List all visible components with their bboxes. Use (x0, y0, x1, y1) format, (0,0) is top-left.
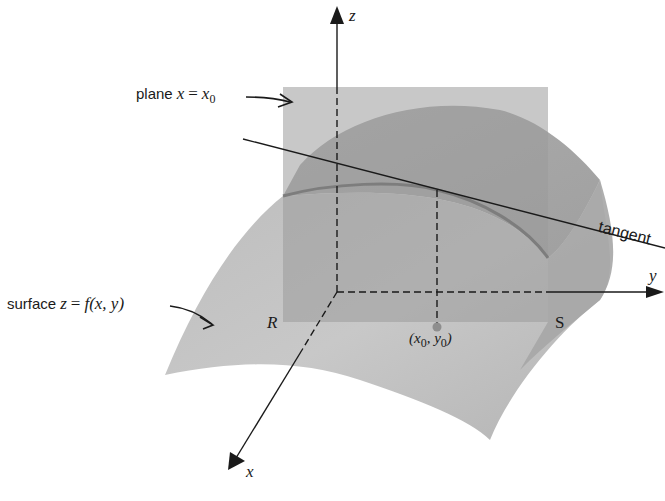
region-s-label: S (555, 313, 564, 333)
plane-label: plane x = x0 (136, 84, 215, 107)
region-r-label: R (267, 313, 277, 333)
z-axis-arrowhead (330, 6, 344, 24)
point-label-close: ) (447, 330, 452, 346)
plane-label-var: x (177, 84, 185, 103)
x-axis-label: x (246, 462, 254, 482)
plane-label-rhs: x0 (202, 84, 216, 103)
surface-label: surface z = f(x, y) (7, 294, 124, 314)
plane-x0 (283, 87, 548, 322)
x-axis (236, 350, 302, 458)
plane-label-eq: = (188, 84, 198, 103)
surface-label-func: f(x, y) (84, 294, 124, 313)
point-label-x: x (414, 330, 421, 346)
point-label: (x0, y0) (409, 330, 452, 351)
y-axis-arrowhead (646, 286, 664, 298)
point-label-y: y (434, 330, 441, 346)
diagram-svg (0, 0, 665, 501)
diagram-canvas: z y x plane x = x0 surface z = f(x, y) t… (0, 0, 665, 501)
surface-label-var: z (60, 294, 67, 313)
plane-label-text: plane (136, 85, 173, 102)
surface-label-text: surface (7, 295, 56, 312)
surface-label-eq: = (71, 294, 81, 313)
y-axis-label: y (649, 266, 657, 286)
z-axis-label: z (349, 6, 356, 26)
plane-label-rhs-sub: 0 (209, 92, 215, 106)
x-axis-arrowhead (228, 452, 245, 470)
